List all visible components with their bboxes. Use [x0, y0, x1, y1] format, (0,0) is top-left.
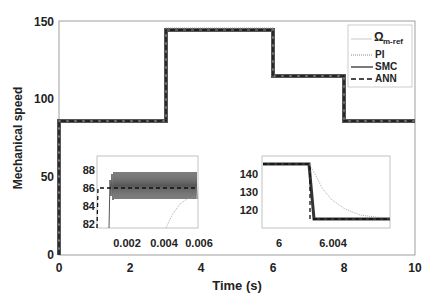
inset1-x-tick: 0.006 [185, 237, 213, 249]
inset1-y-tick: 88 [83, 164, 95, 176]
x-tick: 2 [127, 261, 134, 275]
y-tick: 0 [47, 248, 54, 262]
inset2-y-tick: 130 [240, 186, 258, 198]
y-tick: 50 [41, 170, 55, 184]
x-tick: 8 [341, 261, 348, 275]
inset2-x-tick: 6.004 [319, 237, 347, 249]
inset1-x-tick: 0.002 [113, 237, 141, 249]
legend: Ω m-ref PI SMC ANN [348, 25, 412, 87]
x-tick: 0 [56, 261, 63, 275]
legend-smc: SMC [375, 61, 397, 72]
x-tick: 4 [198, 261, 205, 275]
y-axis: 0 50 100 150 [34, 15, 54, 262]
x-tick: 6 [270, 261, 277, 275]
inset2-y-tick: 140 [240, 168, 258, 180]
inset1-y-tick: 86 [83, 182, 95, 194]
y-axis-label: Mechanical speed [11, 87, 25, 190]
y-tick: 150 [34, 15, 54, 29]
legend-omega-sub: m-ref [383, 37, 403, 46]
x-axis: 0 2 4 6 8 10 [56, 261, 422, 275]
y-tick: 100 [34, 92, 54, 106]
inset1-y-tick: 84 [83, 200, 96, 212]
x-tick: 10 [408, 261, 422, 275]
x-axis-label: Time (s) [212, 278, 262, 293]
inset2-y-tick: 120 [240, 204, 258, 216]
inset1-x-tick: 0.004 [150, 237, 178, 249]
legend-pi: PI [375, 49, 385, 60]
legend-ann: ANN [375, 73, 397, 84]
inset2-x-tick: 6 [276, 237, 282, 249]
inset1-y-tick: 82 [83, 218, 95, 230]
speed-chart: 0 50 100 150 Mechanical speed 0 2 4 6 8 … [0, 0, 438, 308]
